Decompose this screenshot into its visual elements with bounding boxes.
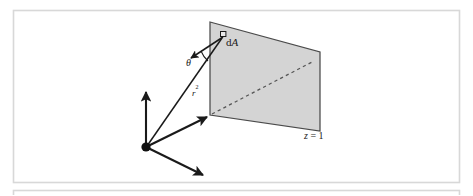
angle-theta-arc — [201, 51, 208, 61]
figure-container: dA θ r2 z = 1 — [0, 0, 473, 195]
diagram-canvas — [0, 0, 473, 195]
origin-point — [141, 142, 150, 151]
label-theta: θ — [186, 58, 191, 68]
axis-z — [146, 117, 207, 147]
label-area-element: dA — [226, 37, 238, 48]
label-z-value: = 1 — [308, 130, 324, 141]
axis-x — [146, 147, 203, 175]
label-r-symbol: r — [192, 88, 196, 98]
label-area-element-symbol: A — [232, 36, 239, 48]
label-r-exponent: 2 — [196, 84, 199, 90]
label-z-equals-1: z = 1 — [304, 131, 324, 141]
label-r-squared: r2 — [192, 87, 199, 98]
figure-lower-strip — [14, 191, 460, 196]
